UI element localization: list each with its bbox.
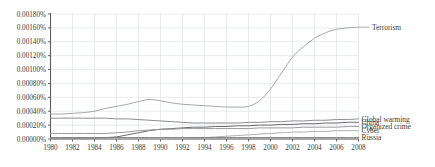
y-tick-label: 0.00120% xyxy=(17,52,46,60)
series-label-russia: Russia xyxy=(362,133,382,142)
ngram-line-chart: 0.00000%0.00020%0.00040%0.00060%0.00080%… xyxy=(0,0,435,167)
x-tick-label: 2000 xyxy=(263,144,278,152)
y-tick-label: 0.00100% xyxy=(17,66,46,74)
y-tick-label: 0.00040% xyxy=(17,108,46,116)
y-tick-label: 0.00140% xyxy=(17,38,46,46)
x-tick-label: 1990 xyxy=(153,144,168,152)
x-tick-label: 1982 xyxy=(65,144,80,152)
x-tick-label: 1984 xyxy=(87,144,102,152)
x-tick-label: 2002 xyxy=(285,144,300,152)
y-tick-label: 0.00060% xyxy=(17,94,46,102)
x-tick-label: 1992 xyxy=(175,144,190,152)
x-tick-label: 1980 xyxy=(43,144,58,152)
y-tick-label: 0.00160% xyxy=(17,24,46,32)
x-tick-label: 2006 xyxy=(329,144,344,152)
x-tick-labels: 1980198219841986198819901992199419961998… xyxy=(43,144,366,152)
x-tick-label: 1986 xyxy=(109,144,124,152)
x-tick-label: 2008 xyxy=(351,144,366,152)
x-tick-label: 1996 xyxy=(219,144,234,152)
x-tick-label: 2004 xyxy=(307,144,322,152)
y-tick-label: 0.00000% xyxy=(17,136,46,144)
y-tick-label: 0.00020% xyxy=(17,122,46,130)
series-label-terrorism: Terrorism xyxy=(372,23,401,32)
x-tick-label: 1988 xyxy=(131,144,146,152)
chart-canvas: 0.00000%0.00020%0.00040%0.00060%0.00080%… xyxy=(0,0,435,167)
x-tick-label: 1998 xyxy=(241,144,256,152)
series-labels: TerrorismGlobal warmingChinaOrganized cr… xyxy=(359,23,412,142)
x-tick-label: 1994 xyxy=(197,144,212,152)
y-tick-label: 0.00180% xyxy=(17,11,46,19)
y-tick-label: 0.00080% xyxy=(17,80,46,88)
y-tick-labels: 0.00000%0.00020%0.00040%0.00060%0.00080%… xyxy=(17,11,46,144)
